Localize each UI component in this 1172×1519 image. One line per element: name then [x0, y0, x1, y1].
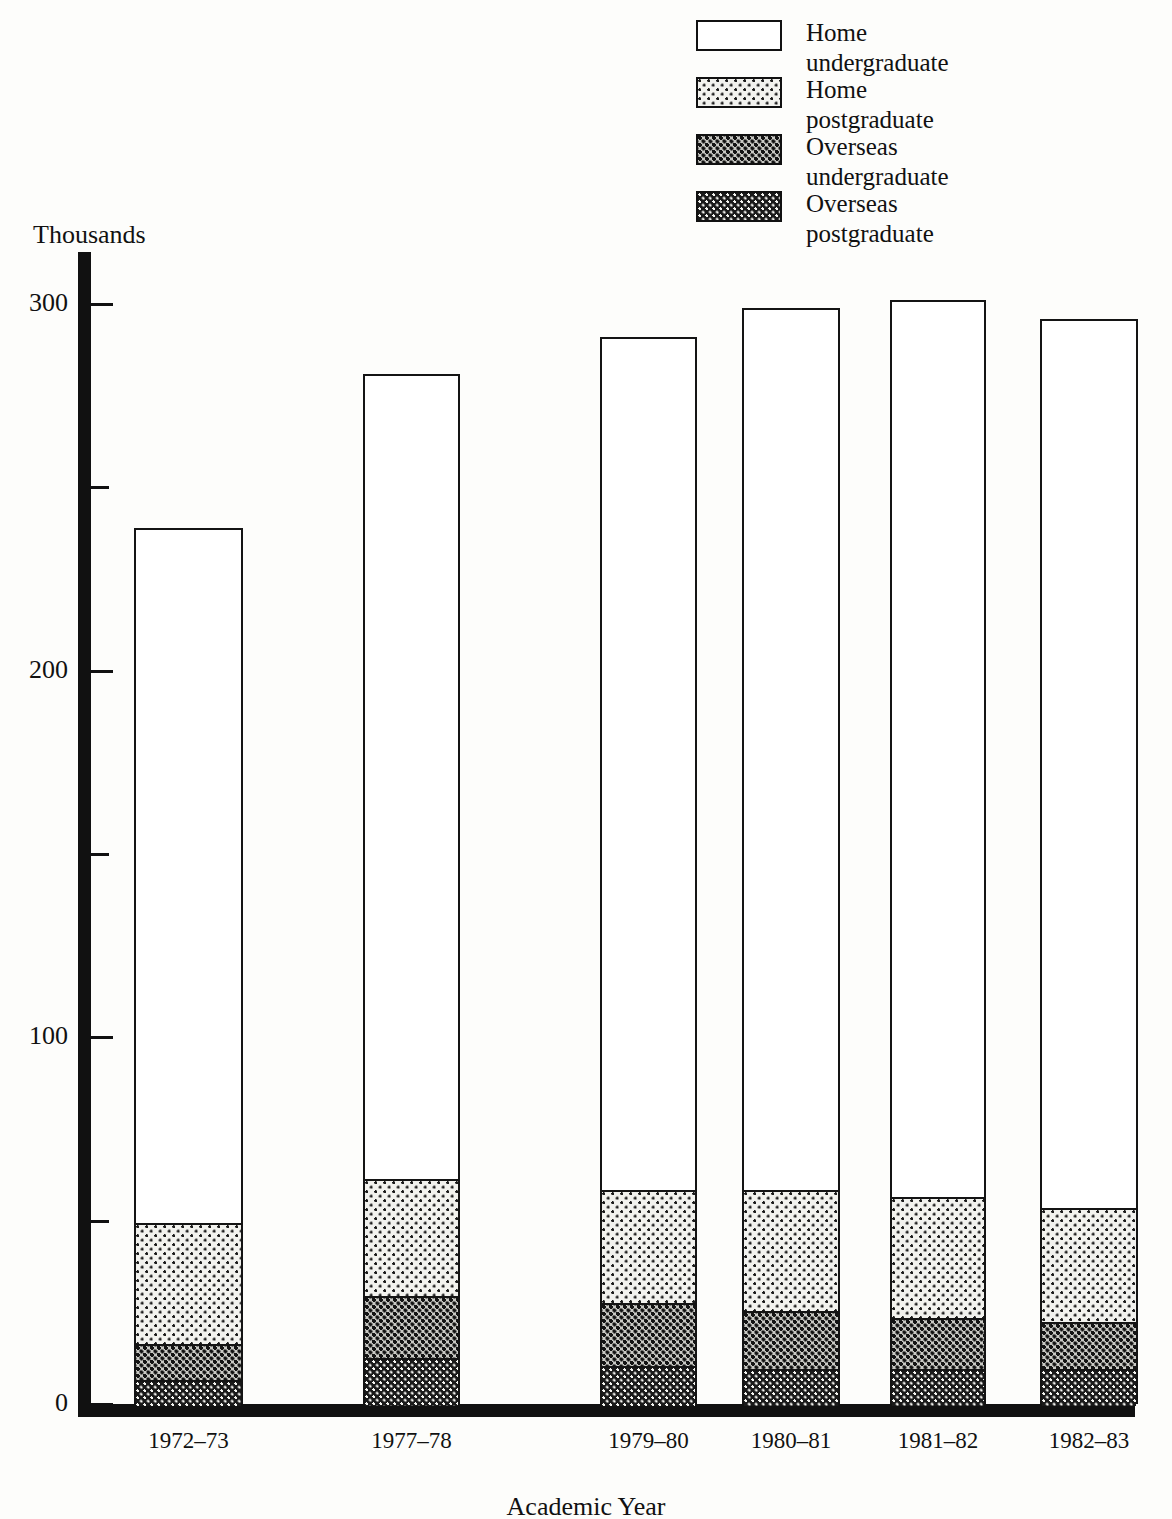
y-axis-line — [78, 252, 91, 1417]
bar-segment-home-postgraduate — [1042, 1208, 1136, 1322]
x-axis-label-5: 1982–83 — [1000, 1428, 1172, 1454]
bar-segment-overseas-postgraduate — [602, 1366, 695, 1406]
y-tick-300 — [91, 303, 113, 306]
bar-segment-home-undergraduate — [892, 302, 984, 1197]
y-tick-50 — [91, 1220, 109, 1223]
bar-segment-overseas-undergraduate — [365, 1296, 458, 1358]
y-tick-label-100: 100 — [0, 1023, 68, 1049]
bar-segment-home-postgraduate — [602, 1190, 695, 1304]
bar-segment-home-postgraduate — [892, 1197, 984, 1318]
y-tick-200 — [91, 670, 113, 673]
y-tick-label-300: 300 — [0, 290, 68, 316]
bar-segment-overseas-postgraduate — [892, 1369, 984, 1406]
bar-segment-overseas-postgraduate — [1042, 1369, 1136, 1406]
bar-1980-81 — [742, 308, 840, 1404]
y-tick-150 — [91, 853, 109, 856]
bar-segment-overseas-postgraduate — [744, 1369, 838, 1406]
bar-segment-home-postgraduate — [136, 1223, 241, 1344]
bar-segment-home-postgraduate — [365, 1179, 458, 1296]
bar-1977-78 — [363, 374, 460, 1404]
bar-segment-home-undergraduate — [744, 310, 838, 1190]
bar-segment-home-undergraduate — [136, 530, 241, 1223]
bar-1979-80 — [600, 337, 697, 1404]
bar-segment-overseas-undergraduate — [892, 1318, 984, 1369]
y-tick-0 — [91, 1403, 113, 1406]
bar-segment-home-postgraduate — [744, 1190, 838, 1311]
y-tick-250 — [91, 486, 109, 489]
bar-1972-73 — [134, 528, 243, 1404]
bar-segment-overseas-undergraduate — [602, 1303, 695, 1365]
bar-segment-overseas-undergraduate — [1042, 1322, 1136, 1370]
bar-segment-overseas-postgraduate — [365, 1358, 458, 1406]
y-axis-unit-label: Thousands — [33, 220, 146, 250]
y-tick-label-200: 200 — [0, 657, 68, 683]
bar-segment-home-undergraduate — [1042, 321, 1136, 1208]
bar-1981-82 — [890, 300, 986, 1404]
x-axis-label-1: 1977–78 — [323, 1428, 500, 1454]
y-tick-label-0: 0 — [0, 1390, 68, 1416]
bar-segment-overseas-undergraduate — [136, 1344, 241, 1381]
bar-segment-home-undergraduate — [602, 339, 695, 1190]
bar-segment-overseas-undergraduate — [744, 1311, 838, 1370]
x-axis-label-0: 1972–73 — [94, 1428, 283, 1454]
bar-segment-overseas-postgraduate — [136, 1380, 241, 1406]
bar-segment-home-undergraduate — [365, 376, 458, 1179]
x-axis-title: Academic Year — [0, 1492, 1172, 1519]
y-tick-100 — [91, 1036, 113, 1039]
bar-1982-83 — [1040, 319, 1138, 1404]
